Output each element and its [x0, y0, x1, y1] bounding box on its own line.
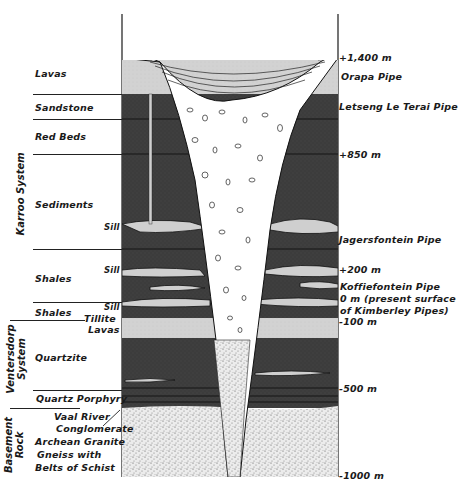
label-tillite-lavas: Lavas: [88, 324, 120, 335]
label-shales-1: Shales: [35, 273, 72, 284]
elevation-plus-200: +200 m: [339, 264, 381, 275]
label-sill-2: Sill: [104, 265, 120, 276]
label-lavas: Lavas: [35, 68, 67, 79]
label-sill-3: Sill: [104, 302, 120, 313]
label-orapa-pipe: Orapa Pipe: [341, 71, 402, 82]
label-sediments: Sediments: [35, 199, 93, 210]
divider-lavas-sandstone: [33, 94, 122, 95]
label-conglomerate: Conglomerate: [56, 423, 134, 434]
label-vaal-river: Vaal River: [54, 411, 110, 422]
elevation-plus-850: +850 m: [339, 149, 381, 160]
label-archean-granite: Archean Granite: [35, 436, 125, 447]
divider-sediments-shales: [33, 249, 122, 250]
divider-redbeds-sediments: [33, 154, 122, 155]
elevation-minus-1000: -1000 m: [339, 470, 384, 481]
elevation-minus-100: -100 m: [339, 316, 377, 327]
sill-middle-left: [122, 268, 205, 277]
label-zero-present-surface: 0 m (present surface: [340, 293, 456, 304]
divider-ventersdorp-basement: [10, 408, 80, 409]
label-sandstone: Sandstone: [35, 102, 94, 113]
group-label-ventersdorp-system: Ventersdorp System: [5, 319, 29, 399]
label-quartzite: Quartzite: [35, 352, 87, 363]
label-gneiss: Gneiss with: [37, 449, 101, 460]
label-letseng-le-terai-pipe: Letseng Le Terai Pipe: [339, 101, 458, 112]
label-kimberley-pipes: of Kimberley Pipes): [340, 305, 449, 316]
group-label-karroo-system: Karroo System: [15, 156, 26, 236]
sill-upper-right: [270, 219, 338, 234]
label-tillite: Tillite: [84, 313, 116, 324]
label-sill-1: Sill: [104, 222, 120, 233]
elevation-plus-1400: +1,400 m: [339, 52, 392, 63]
group-label-basement-rock: Basement Rock: [3, 410, 27, 480]
label-koffiefontein-pipe: Koffiefontein Pipe: [340, 281, 440, 292]
label-belts-of-schist: Belts of Schist: [35, 462, 115, 473]
label-shales-2: Shales: [35, 307, 72, 318]
label-jagersfontein-pipe: Jagersfontein Pipe: [339, 234, 441, 245]
label-red-beds: Red Beds: [35, 131, 86, 142]
divider-quartzite-porphyry: [33, 390, 122, 391]
label-quartz-porphyry: Quartz Porphyry: [36, 393, 127, 404]
dike: [149, 94, 152, 224]
elevation-minus-500: -500 m: [339, 383, 377, 394]
divider-sandstone-redbeds: [33, 119, 122, 120]
